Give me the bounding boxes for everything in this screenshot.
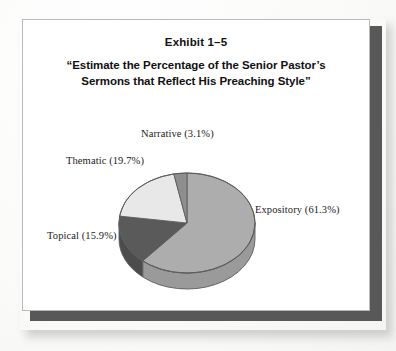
exhibit-title-line-1: “Estimate the Percentage of the Senior P… bbox=[23, 57, 369, 73]
pie-label-topical: Topical (15.9%) bbox=[47, 230, 117, 241]
exhibit-title-block: Exhibit 1–5 “Estimate the Percentage of … bbox=[23, 36, 369, 89]
pie-label-expository: Expository (61.3%) bbox=[255, 204, 340, 215]
exhibit-title-line-2: Sermons that Reflect His Preaching Style… bbox=[23, 73, 369, 89]
pie-chart-area: Narrative (3.1%) Thematic (19.7%) Topica… bbox=[23, 108, 371, 308]
exhibit-number: Exhibit 1–5 bbox=[23, 36, 369, 48]
pie-label-narrative: Narrative (3.1%) bbox=[141, 128, 214, 139]
pie-label-thematic: Thematic (19.7%) bbox=[66, 155, 144, 166]
exhibit-frame: Exhibit 1–5 “Estimate the Percentage of … bbox=[22, 19, 370, 311]
